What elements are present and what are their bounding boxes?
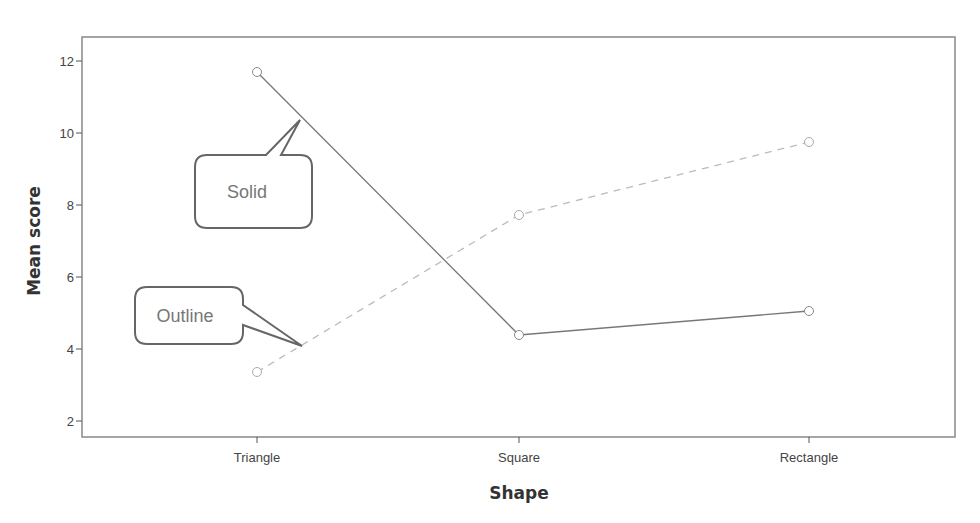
chart: 12 10 8 6 4 2 Triangle Square Rectangle … bbox=[0, 0, 980, 523]
y-tick-10: 10 bbox=[60, 126, 74, 141]
y-tick-6: 6 bbox=[67, 270, 74, 285]
point-outline-triangle bbox=[253, 368, 262, 377]
y-tick-12: 12 bbox=[60, 54, 74, 69]
x-axis bbox=[257, 437, 809, 443]
y-axis-title: Mean score bbox=[24, 186, 44, 296]
x-axis-title: Shape bbox=[489, 483, 549, 503]
y-tick-4: 4 bbox=[67, 342, 74, 357]
x-tick-rectangle: Rectangle bbox=[780, 450, 839, 465]
point-outline-rectangle bbox=[805, 138, 814, 147]
point-solid-rectangle bbox=[805, 307, 814, 316]
y-tick-8: 8 bbox=[67, 198, 74, 213]
y-axis bbox=[76, 61, 82, 421]
plot-area bbox=[82, 37, 955, 437]
callout-solid-label: Solid bbox=[227, 182, 267, 202]
x-tick-triangle: Triangle bbox=[234, 450, 280, 465]
x-tick-square: Square bbox=[498, 450, 540, 465]
y-tick-2: 2 bbox=[67, 414, 74, 429]
point-outline-square bbox=[515, 211, 524, 220]
point-solid-square bbox=[515, 331, 524, 340]
callout-outline-label: Outline bbox=[156, 306, 213, 326]
point-solid-triangle bbox=[253, 68, 262, 77]
